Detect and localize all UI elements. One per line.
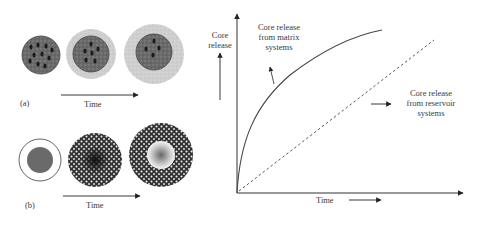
y-axis-label: Core release <box>200 30 240 50</box>
panel-a-label: (a) <box>20 98 29 108</box>
panel-b-time-label: Time <box>86 200 104 210</box>
reservoir-release-label: Core release from reservoir systems <box>396 88 466 118</box>
matrix-release-label: Core release from matrix systems <box>244 22 314 52</box>
panel-b-label: (b) <box>25 200 35 210</box>
panel-b-stage-1 <box>19 139 61 181</box>
panel-a-stage-2 <box>66 29 116 79</box>
matrix-label-arrow <box>270 67 274 84</box>
x-axis-label: Time <box>316 195 334 205</box>
panel-a-stage-1 <box>22 36 60 74</box>
panel-a-time-label: Time <box>84 99 102 109</box>
panel-b-stage-2 <box>68 133 122 187</box>
panel-a-stage-3 <box>124 24 184 84</box>
panel-b-stage-3 <box>129 123 193 187</box>
matrix-release-curve <box>237 30 382 193</box>
